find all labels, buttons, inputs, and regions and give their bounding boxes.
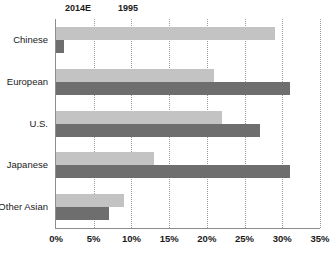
tick-label-5%: 5% bbox=[74, 233, 114, 244]
bar-chinese-2014e bbox=[56, 27, 275, 40]
bar-european-1995 bbox=[56, 82, 290, 95]
tick-label-35%: 35% bbox=[300, 233, 334, 244]
category-label-chinese: Chinese bbox=[0, 35, 48, 45]
tick-label-15%: 15% bbox=[149, 233, 189, 244]
gridline-35% bbox=[320, 19, 321, 228]
category-label-other-asian: Other Asian bbox=[0, 202, 48, 212]
bar-japanese-2014e bbox=[56, 152, 154, 165]
bar-european-2014e bbox=[56, 69, 214, 82]
bar-japanese-1995 bbox=[56, 165, 290, 178]
legend-swatch-1995 bbox=[105, 4, 114, 13]
bar-other-asian-1995 bbox=[56, 207, 109, 220]
legend-label-2014e: 2014E bbox=[65, 4, 91, 13]
gridline-30% bbox=[282, 19, 283, 228]
category-label-u-s: U.S. bbox=[0, 119, 48, 129]
bar-u-s-2014e bbox=[56, 111, 222, 124]
tick-label-10%: 10% bbox=[111, 233, 151, 244]
legend-item-1995: 1995 bbox=[105, 4, 138, 13]
tick-label-30%: 30% bbox=[262, 233, 302, 244]
clipped-footer-text bbox=[0, 246, 324, 254]
bar-chinese-1995 bbox=[56, 40, 64, 53]
legend-item-2014e: 2014E bbox=[52, 4, 91, 13]
category-label-japanese: Japanese bbox=[0, 160, 48, 170]
tick-label-25%: 25% bbox=[225, 233, 265, 244]
chart-plot-area: ChineseEuropeanU.S.JapaneseOther Asian 0… bbox=[56, 19, 320, 228]
legend-label-1995: 1995 bbox=[118, 4, 138, 13]
tick-label-0%: 0% bbox=[36, 233, 76, 244]
chart-legend: 2014E 1995 bbox=[52, 2, 138, 14]
category-label-european: European bbox=[0, 77, 48, 87]
category-axis-line bbox=[55, 228, 320, 229]
tick-label-20%: 20% bbox=[187, 233, 227, 244]
bar-u-s-1995 bbox=[56, 124, 260, 137]
legend-swatch-2014e bbox=[52, 4, 61, 13]
bar-other-asian-2014e bbox=[56, 194, 124, 207]
